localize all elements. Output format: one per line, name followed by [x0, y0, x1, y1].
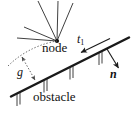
node-ray-2	[57, 1, 58, 41]
normal-arrow	[107, 49, 119, 68]
gap-measure-arrow	[22, 57, 35, 80]
normal-label: n	[110, 68, 117, 80]
obstacle-label: obstacle	[33, 90, 76, 103]
gap-label: g	[17, 66, 23, 78]
node-ray-3	[57, 3, 73, 41]
node-rays	[17, 1, 73, 41]
tangent-subscript: 1	[80, 38, 84, 47]
tangent-label: t1	[77, 33, 84, 45]
figure-container: node obstacle t1 n g	[0, 0, 135, 119]
node-ray-1	[38, 1, 57, 41]
node-label: node	[42, 41, 67, 54]
